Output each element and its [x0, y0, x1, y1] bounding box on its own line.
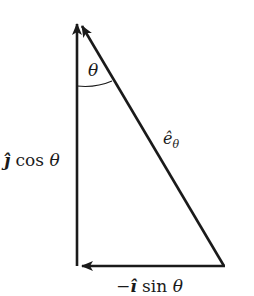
horizontal-trig: sin — [137, 276, 173, 296]
hypotenuse-vector-arrow — [82, 26, 224, 266]
hypotenuse-subscript: θ — [172, 138, 179, 151]
vertical-component-label: ĵ cos θ — [1, 150, 60, 170]
hypotenuse-vector-symbol: ê — [163, 129, 172, 148]
angle-arc — [77, 81, 112, 86]
vertical-angle: θ — [49, 150, 59, 170]
hypotenuse-label: êθ — [163, 129, 179, 151]
horizontal-sign: − — [116, 276, 130, 296]
vertical-trig: cos — [10, 150, 49, 170]
angle-label: θ — [88, 60, 98, 80]
horizontal-angle: θ — [173, 276, 183, 296]
horizontal-component-label: −î sin θ — [116, 276, 183, 296]
vector-triangle-diagram: θ êθ ĵ cos θ −î sin θ — [0, 0, 254, 296]
